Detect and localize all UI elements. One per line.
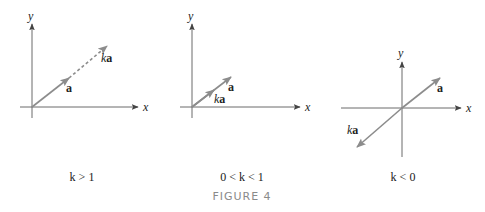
panel-k-greater-than-1: y x a ka <box>20 9 149 118</box>
panel-k-between-0-and-1: y x a ka <box>180 9 311 118</box>
y-axis-label: y <box>397 46 404 60</box>
vector-ka <box>192 90 214 107</box>
x-axis-label: x <box>304 100 311 114</box>
vector-a-label: a <box>66 81 72 95</box>
vector-ka-label: ka <box>101 51 112 65</box>
vector-a <box>402 78 440 108</box>
caption-k-between-0-and-1: 0 < k < 1 <box>220 170 264 185</box>
vector-ka-label: ka <box>347 123 358 137</box>
panel-k-less-than-0: y x a ka <box>341 46 472 157</box>
vector-a-label: a <box>228 80 234 94</box>
vector-a <box>32 78 69 107</box>
vector-ka <box>357 108 402 147</box>
vector-a-label: a <box>437 81 443 95</box>
x-axis-label: x <box>465 101 472 115</box>
caption-k-less-than-0: k < 0 <box>391 170 416 185</box>
y-axis-label: y <box>187 9 194 23</box>
figure-title: FIGURE 4 <box>212 190 271 203</box>
x-axis-label: x <box>142 100 149 114</box>
vector-ka-label: ka <box>214 92 225 106</box>
y-axis-label: y <box>27 9 34 23</box>
caption-k-greater-than-1: k > 1 <box>70 170 95 185</box>
